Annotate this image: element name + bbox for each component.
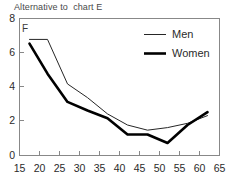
x-tick-label: 40	[114, 162, 126, 174]
x-tick-label: 15	[14, 162, 26, 174]
x-tick-label: 35	[94, 162, 106, 174]
y-tick-labels: 8 6 4 2 0	[9, 12, 15, 161]
x-tick-label: 45	[134, 162, 146, 174]
chart-container: Alternative to chart E	[0, 0, 229, 188]
legend-label-men: Men	[172, 28, 193, 40]
y-tick-label: 2	[9, 114, 15, 126]
x-tick-marks	[20, 151, 220, 156]
y-tick-label: 6	[9, 46, 15, 58]
x-tick-label: 60	[194, 162, 206, 174]
x-tick-label: 20	[34, 162, 46, 174]
line-chart: 8 6 4 2 0 15 20 25 30 35 40 45 50 55 60 …	[0, 0, 229, 188]
x-tick-label: 30	[74, 162, 86, 174]
y-tick-label: 4	[9, 80, 15, 92]
legend-label-women: Women	[172, 47, 210, 59]
x-tick-labels: 15 20 25 30 35 40 45 50 55 60 65	[14, 162, 226, 174]
x-tick-label: 50	[154, 162, 166, 174]
y-tick-label: 0	[9, 149, 15, 161]
panel-annotation-f: F	[22, 23, 28, 34]
x-tick-label: 65	[214, 162, 226, 174]
y-tick-label: 8	[9, 12, 15, 24]
x-tick-label: 25	[54, 162, 66, 174]
chart-legend: Men Women	[144, 28, 210, 59]
y-tick-marks	[20, 19, 25, 156]
x-tick-label: 55	[174, 162, 186, 174]
